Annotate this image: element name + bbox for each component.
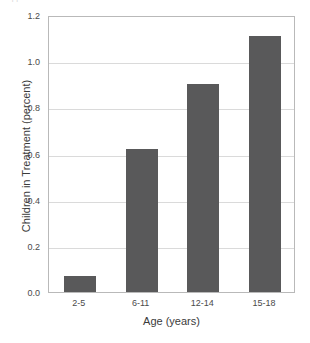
plot-area <box>48 16 295 293</box>
x-tick-label: 15-18 <box>240 298 288 308</box>
y-axis-title: Children in Treatment (percent) <box>20 46 32 266</box>
bar <box>249 36 281 292</box>
bar <box>187 84 219 292</box>
y-tick-label: 1.2 <box>27 11 40 21</box>
x-axis-tick-labels: 2-56-1112-1415-18 <box>48 298 295 312</box>
x-tick-label: 12-14 <box>178 298 226 308</box>
x-tick-label: 2-5 <box>55 298 103 308</box>
x-axis-title: Age (years) <box>48 315 295 327</box>
bar <box>64 276 96 292</box>
bar <box>126 149 158 292</box>
x-tick-label: 6-11 <box>117 298 165 308</box>
y-tick-label: 0.0 <box>27 288 40 298</box>
bar-chart-figure: 0.00.20.40.60.81.01.2 2-56-1112-1415-18 … <box>0 0 310 343</box>
